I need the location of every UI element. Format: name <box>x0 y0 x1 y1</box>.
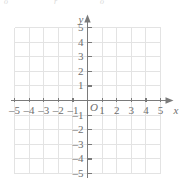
y-tick-label-3: 3 <box>78 51 84 62</box>
x-tick-label-4: 4 <box>143 105 149 116</box>
x-tick-label-1: 1 <box>99 105 105 116</box>
x-tick-label-3: 3 <box>129 105 135 116</box>
origin-label: O <box>90 102 98 113</box>
x-tick-label-2: 2 <box>114 105 120 116</box>
y-tick-label--1: –1 <box>73 110 84 121</box>
x-tick-label--5: –5 <box>9 105 20 116</box>
x-tick-label-5: 5 <box>158 105 164 116</box>
x-tick-label--2: –2 <box>53 105 64 116</box>
y-tick-label-2: 2 <box>78 66 84 77</box>
plot-area <box>0 0 184 179</box>
axis-lines <box>11 15 174 178</box>
coordinate-grid-figure: o r o –5–4–3–2–11234554321–1–2–3–4–5Oxy <box>0 0 184 179</box>
y-axis-label: y <box>79 14 84 25</box>
y-tick-label--5: –5 <box>73 168 84 179</box>
y-tick-label-4: 4 <box>78 37 84 48</box>
x-tick-label--4: –4 <box>24 105 35 116</box>
x-tick-label--3: –3 <box>38 105 49 116</box>
y-tick-label-1: 1 <box>78 80 84 91</box>
y-tick-label--4: –4 <box>73 153 84 164</box>
y-tick-label--2: –2 <box>73 124 84 135</box>
y-tick-label--3: –3 <box>73 139 84 150</box>
x-axis-label: x <box>174 105 179 116</box>
